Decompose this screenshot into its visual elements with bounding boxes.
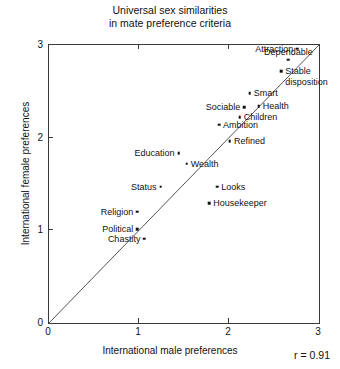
- plot-area: AttractionDependableStabledispositionSma…: [48, 44, 320, 324]
- data-point: [208, 202, 211, 205]
- data-point-label: Wealth: [191, 159, 219, 169]
- data-point: [216, 185, 219, 188]
- scatter-plot-figure: Universal sex similarities in mate prefe…: [0, 0, 340, 369]
- x-axis-tick: [138, 318, 139, 323]
- x-axis-tick: [228, 318, 229, 323]
- data-point: [280, 70, 283, 73]
- y-axis-tick-label: 1: [37, 224, 43, 235]
- data-point: [136, 228, 139, 231]
- data-point: [257, 105, 260, 108]
- data-point: [229, 140, 232, 143]
- data-point-label: Sociable: [206, 102, 241, 112]
- x-axis-label: International male preferences: [0, 345, 340, 356]
- data-point-label: Religion: [101, 207, 134, 217]
- data-point: [177, 152, 180, 155]
- y-axis-tick-label: 0: [37, 317, 43, 328]
- y-axis-tick: [48, 137, 53, 138]
- x-axis-tick-label: 1: [135, 326, 141, 337]
- data-point: [136, 211, 139, 214]
- chart-title: Universal sex similarities in mate prefe…: [0, 4, 340, 30]
- data-point: [239, 116, 242, 119]
- data-point-label: Housekeeper: [213, 198, 267, 208]
- data-point-label: Looks: [221, 182, 245, 192]
- data-point-label: Ambition: [223, 120, 258, 130]
- y-axis-tick-label: 3: [37, 39, 43, 50]
- data-point: [287, 59, 290, 62]
- x-axis-tick: [228, 44, 229, 49]
- data-point-label: Refined: [234, 136, 265, 146]
- data-point-label: Chastity: [108, 234, 141, 244]
- data-point-label: Status: [131, 182, 157, 192]
- x-axis-tick-label: 0: [45, 326, 51, 337]
- data-point-label: disposition: [285, 77, 328, 87]
- x-axis-tick-label: 3: [315, 326, 321, 337]
- chart-title-line-2: in mate preference criteria: [0, 17, 340, 30]
- data-point: [143, 237, 146, 240]
- chart-title-line-1: Universal sex similarities: [0, 4, 340, 17]
- data-point-label: Education: [135, 148, 175, 158]
- y-axis-tick-label: 2: [37, 131, 43, 142]
- data-point: [243, 106, 246, 109]
- identity-reference-line: [49, 45, 319, 323]
- data-point-label: Dependable: [264, 47, 313, 57]
- data-point-label: Smart: [254, 88, 278, 98]
- x-axis-tick: [138, 44, 139, 49]
- data-point-label: Stable: [285, 66, 311, 76]
- y-axis-tick: [48, 229, 53, 230]
- data-point: [159, 185, 162, 188]
- data-point: [185, 162, 188, 165]
- data-point: [248, 92, 251, 95]
- correlation-annotation: r = 0.91: [294, 349, 330, 361]
- y-axis-label: International female preferences: [20, 74, 31, 274]
- data-point: [218, 123, 221, 126]
- data-point-label: Health: [263, 101, 289, 111]
- x-axis-tick-label: 2: [225, 326, 231, 337]
